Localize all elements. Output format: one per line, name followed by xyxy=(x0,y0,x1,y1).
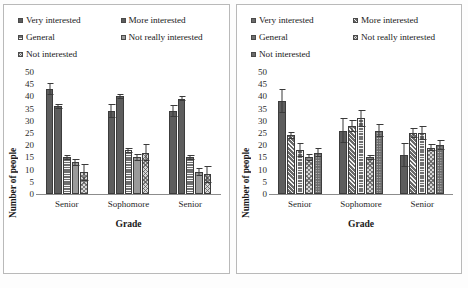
legend-item-label: General xyxy=(26,33,55,42)
y-axis-tick-label: 0 xyxy=(30,190,35,199)
error-bar xyxy=(49,83,50,95)
y-axis-tick-label: 20 xyxy=(258,141,267,150)
bar xyxy=(278,101,286,194)
x-axis-tick-label: Sophomore xyxy=(330,200,391,209)
y-axis-tick-label: 25 xyxy=(258,129,267,138)
error-bar xyxy=(207,166,208,183)
legend-item: Not really interested xyxy=(121,29,224,46)
bar-slot xyxy=(348,72,356,194)
legend-item-label: More interested xyxy=(129,16,186,25)
error-bar xyxy=(119,94,120,99)
chart-panel-right: Very interested More interested General … xyxy=(236,4,462,274)
bar xyxy=(133,157,141,194)
bar-slot xyxy=(296,72,304,194)
legend-item-label: Very interested xyxy=(259,16,314,25)
bar xyxy=(348,126,356,194)
legend-swatch-icon xyxy=(18,18,23,23)
axes-left: SeniorSophomoreSeniorGrade xyxy=(36,66,221,273)
legend-swatch-icon xyxy=(18,35,23,40)
error-bar xyxy=(66,155,67,160)
error-bar xyxy=(378,124,379,136)
x-axis-title: Grade xyxy=(36,218,221,229)
legend-item: Not interested xyxy=(18,46,223,63)
plot-area-right: Number of people 05101520253035404550 Se… xyxy=(237,65,461,273)
y-axis-tick-label: 45 xyxy=(258,80,267,89)
axes-right: SeniorSophomoreSeniorGrade xyxy=(269,66,453,273)
bar-slot xyxy=(339,72,347,194)
bar-slot xyxy=(186,72,194,194)
error-bar xyxy=(198,168,199,175)
bar-slot xyxy=(366,72,374,194)
legend-item-label: Very interested xyxy=(26,16,81,25)
error-bar xyxy=(431,144,432,151)
y-axis-tick-label: 35 xyxy=(25,104,34,113)
legend-swatch-icon xyxy=(251,52,256,57)
bar-slot xyxy=(195,72,203,194)
bar-slot xyxy=(314,72,322,194)
bar-slot xyxy=(169,72,177,194)
bar-slot xyxy=(278,72,286,194)
error-bar xyxy=(317,148,318,158)
error-bar xyxy=(281,89,282,113)
bar xyxy=(436,145,444,194)
legend-item-label: More interested xyxy=(361,16,418,25)
legend-swatch-icon xyxy=(18,52,23,57)
x-axis-tick-label: Sophomore xyxy=(98,200,160,209)
plot-area-left: Number of people 05101520253035404550 Se… xyxy=(4,65,229,273)
legend-item-label: Not interested xyxy=(26,50,77,59)
error-bar xyxy=(190,155,191,160)
error-bar xyxy=(308,154,309,161)
bar xyxy=(178,99,186,194)
bar xyxy=(186,157,194,194)
bar-slot xyxy=(427,72,435,194)
bar-group xyxy=(278,72,322,194)
error-bar xyxy=(351,120,352,132)
error-bar xyxy=(137,154,138,161)
bar-slot xyxy=(357,72,365,194)
legend-item: General xyxy=(18,29,121,46)
error-bar xyxy=(342,118,343,142)
bar xyxy=(375,131,383,194)
y-axis-ticks: 05101520253035404550 xyxy=(20,66,36,273)
bar xyxy=(418,133,426,194)
x-axis-tick-label: Senior xyxy=(392,200,453,209)
y-axis-tick-label: 30 xyxy=(25,116,34,125)
bar-group xyxy=(339,72,383,194)
x-axis-title: Grade xyxy=(269,218,453,229)
y-axis-ticks: 05101520253035404550 xyxy=(253,66,269,273)
legend-item-label: Not really interested xyxy=(361,33,435,42)
bar-group xyxy=(46,72,88,194)
bar-slot xyxy=(142,72,150,194)
bar-slot xyxy=(72,72,80,194)
bar-slot xyxy=(108,72,116,194)
y-axis-tick-label: 30 xyxy=(258,116,267,125)
error-bar xyxy=(75,159,76,166)
bar xyxy=(305,157,313,194)
y-axis-tick-label: 15 xyxy=(258,153,267,162)
bar-slot xyxy=(125,72,133,194)
error-bar xyxy=(128,148,129,153)
chart-panel-left: Very interested More interested General … xyxy=(3,4,230,274)
legend-swatch-icon xyxy=(251,18,256,23)
legend-swatch-icon xyxy=(251,35,256,40)
bar-slot xyxy=(375,72,383,194)
bar xyxy=(108,111,116,194)
error-bar xyxy=(290,132,291,139)
bar-slot xyxy=(54,72,62,194)
legend-item: More interested xyxy=(353,12,455,29)
bar-group xyxy=(169,72,211,194)
legend-item: Very interested xyxy=(18,12,121,29)
x-axis-ticks: SeniorSophomoreSenior xyxy=(36,200,221,209)
bar xyxy=(72,162,80,194)
y-axis-tick-label: 5 xyxy=(263,177,268,186)
y-axis-tick-label: 5 xyxy=(30,177,35,186)
bar-slot xyxy=(436,72,444,194)
error-bar xyxy=(299,143,300,158)
bar xyxy=(116,96,124,194)
bar xyxy=(366,157,374,194)
y-axis-title: Number of people xyxy=(6,66,20,273)
bar xyxy=(54,106,62,194)
bar xyxy=(427,148,435,194)
legend-left: Very interested More interested General … xyxy=(4,5,229,65)
legend-item: Not really interested xyxy=(353,29,455,46)
